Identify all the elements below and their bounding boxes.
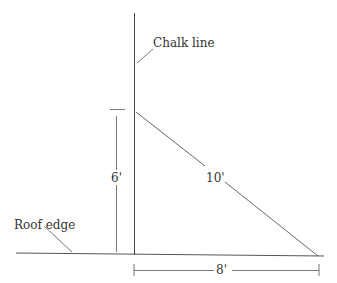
hypotenuse-line-lower [225, 182, 318, 256]
roof-edge-label: Roof edge [14, 218, 75, 232]
height-label: 6' [111, 171, 122, 185]
chalk-line-leader [137, 49, 153, 63]
base-label: 8' [216, 263, 227, 277]
hypotenuse-line-upper [136, 112, 205, 166]
roof-edge-line [16, 253, 324, 256]
chalk-line-label: Chalk line [153, 36, 215, 50]
diagram-canvas: Roof edge Chalk line 6' 10' 8' [0, 0, 337, 283]
three-four-five-diagram: Roof edge Chalk line 6' 10' 8' [0, 0, 337, 283]
hypotenuse-label: 10' [206, 171, 225, 185]
